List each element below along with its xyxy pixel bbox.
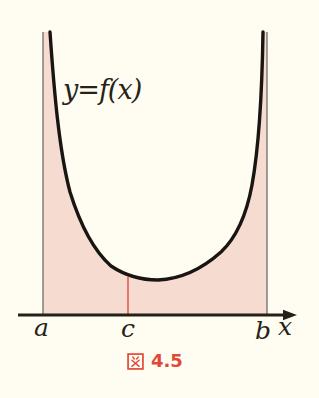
axis-tick-label-b: b: [255, 318, 271, 343]
curve-equation-label: y=f(x): [63, 76, 141, 103]
x-axis-label: x: [278, 314, 292, 339]
axis-tick-label-c: c: [121, 316, 135, 341]
figure-caption: 4.5: [127, 352, 183, 370]
textbook-figure-page: y=f(x) a c b x 4.5: [0, 0, 319, 398]
figure-caption-number: 4.5: [151, 352, 183, 370]
zu-kanji-icon: [127, 353, 144, 370]
axis-tick-label-a: a: [34, 315, 49, 340]
